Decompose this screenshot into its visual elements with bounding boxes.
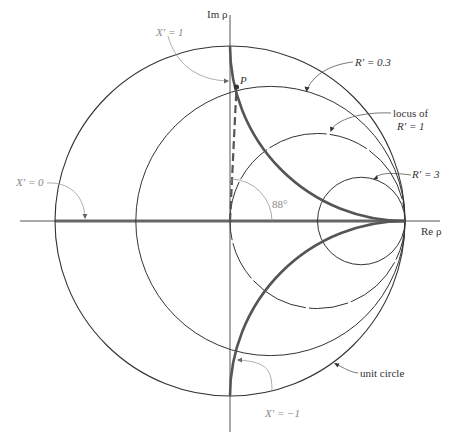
smith-chart-svg: Im ρ Re ρ X′ = 1 X′ = 0 X′ = −1 R′ = 0.3… [0, 0, 457, 441]
imaginary-axis-label: Im ρ [207, 8, 228, 20]
r-prime-0-3-leader [307, 62, 353, 90]
unit-circle-leader [336, 364, 358, 373]
r-prime-0-3-label: R′ = 0.3 [354, 56, 391, 68]
x-prime-1-label: X′ = 1 [155, 26, 184, 38]
x-prime-0-arrowhead-icon [83, 214, 88, 219]
x-prime-minus-1-leader [238, 360, 272, 392]
r-prime-1-arrowhead-icon [330, 127, 335, 133]
x-prime-0-leader [47, 183, 85, 218]
unit-circle-label: unit circle [360, 367, 404, 379]
angle-label: 88° [272, 198, 287, 210]
x-prime-minus-1-label: X′ = −1 [264, 407, 300, 419]
x-prime-1-leader [168, 36, 228, 81]
x-prime-minus-1-arrowhead-icon [237, 358, 242, 363]
x-prime-1-arrowhead-icon [224, 79, 229, 84]
point-p-marker [234, 85, 239, 90]
locus-label-line2: R′ = 1 [396, 120, 425, 132]
real-axis-label: Re ρ [421, 225, 442, 237]
p-radius-dashed-line [230, 87, 237, 221]
x-prime-0-label: X′ = 0 [15, 176, 44, 188]
smith-chart-figure: Im ρ Re ρ X′ = 1 X′ = 0 X′ = −1 R′ = 0.3… [0, 0, 457, 441]
r-prime-3-label: R′ = 3 [411, 168, 440, 180]
point-p-label: P [239, 74, 247, 86]
locus-label-line1: locus of [393, 107, 428, 119]
